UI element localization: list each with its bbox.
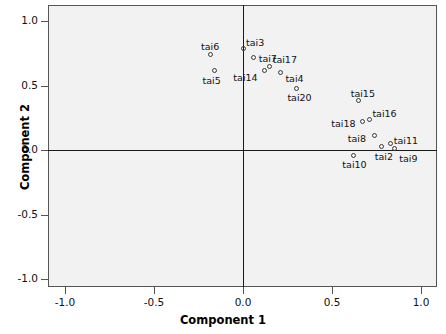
y-tick-mark bbox=[41, 21, 48, 22]
data-point-label: tai15 bbox=[351, 88, 375, 99]
data-point-label: tai4 bbox=[285, 73, 303, 84]
y-tick-mark bbox=[41, 150, 48, 151]
x-axis-title: Component 1 bbox=[0, 313, 446, 327]
data-point-label: tai9 bbox=[399, 153, 417, 164]
clipped-title bbox=[0, 0, 446, 3]
data-point-label: tai18 bbox=[331, 118, 355, 129]
x-tick-mark bbox=[65, 287, 66, 294]
data-point-marker[interactable] bbox=[241, 46, 246, 51]
x-tick-label: 0.5 bbox=[324, 296, 341, 308]
y-tick-label: -1.0 bbox=[4, 272, 38, 284]
data-point-label: tai5 bbox=[203, 75, 221, 86]
data-point-marker[interactable] bbox=[251, 55, 256, 60]
data-point-marker[interactable] bbox=[351, 153, 356, 158]
data-point-label: tai17 bbox=[273, 54, 297, 65]
data-point-marker[interactable] bbox=[294, 86, 299, 91]
data-point-label: tai10 bbox=[342, 159, 366, 170]
x-tick-mark bbox=[332, 287, 333, 294]
x-tick-mark bbox=[154, 287, 155, 294]
data-point-label: tai8 bbox=[348, 133, 366, 144]
data-point-marker[interactable] bbox=[262, 68, 267, 73]
y-tick-mark bbox=[41, 279, 48, 280]
data-point-marker[interactable] bbox=[367, 117, 372, 122]
scatter-plot-figure: 1.00.50.0-0.5-1.0 -1.0-0.50.00.51.0 tai6… bbox=[0, 0, 446, 334]
y-tick-mark bbox=[41, 215, 48, 216]
x-tick-label: 0.0 bbox=[235, 296, 252, 308]
data-point-marker[interactable] bbox=[360, 119, 365, 124]
x-tick-label: -1.0 bbox=[55, 296, 76, 308]
data-point-marker[interactable] bbox=[267, 64, 272, 69]
data-point-label: tai11 bbox=[394, 135, 418, 146]
x-tick-mark bbox=[243, 287, 244, 294]
data-point-marker[interactable] bbox=[278, 70, 283, 75]
y-axis-title: Component 2 bbox=[18, 67, 32, 227]
x-tick-label: -0.5 bbox=[144, 296, 165, 308]
y-tick-label: 1.0 bbox=[4, 14, 38, 26]
data-point-label: tai14 bbox=[233, 72, 257, 83]
data-point-label: tai6 bbox=[201, 41, 219, 52]
x-tick-mark bbox=[421, 287, 422, 294]
data-point-label: tai2 bbox=[375, 151, 393, 162]
data-point-label: tai16 bbox=[372, 108, 396, 119]
data-point-label: tai3 bbox=[246, 37, 264, 48]
x-tick-label: 1.0 bbox=[413, 296, 430, 308]
data-point-marker[interactable] bbox=[392, 146, 397, 151]
data-point-marker[interactable] bbox=[212, 68, 217, 73]
data-point-label: tai20 bbox=[287, 92, 311, 103]
y-tick-mark bbox=[41, 86, 48, 87]
data-point-marker[interactable] bbox=[379, 144, 384, 149]
